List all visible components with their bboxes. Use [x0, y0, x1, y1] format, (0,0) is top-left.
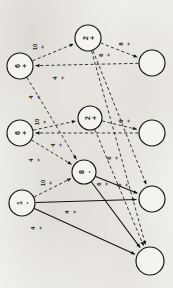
- node-n10: [136, 247, 164, 275]
- edge-weight-label: 4+: [64, 210, 77, 214]
- node-n9: [139, 186, 165, 212]
- node-value: 6: [14, 131, 21, 135]
- edge-n8-n10: [34, 209, 135, 255]
- edge-weight-label: 4+: [52, 76, 65, 80]
- edge-weight-label: 10+: [34, 118, 47, 125]
- node-n3: [139, 50, 165, 76]
- edge-weight-sign: +: [125, 119, 131, 123]
- edge-weight-value: 4: [52, 76, 58, 80]
- network-diagram: 10+8+6+4+4+10+6+4+4+6+10+6+6+4+4+ 2+6+2+…: [0, 0, 173, 288]
- edge-weight-value: 10: [40, 179, 46, 186]
- edge-weight-sign: +: [35, 158, 41, 162]
- node-label-group: 6+: [14, 64, 29, 68]
- edge-weight-label: 4+: [30, 226, 43, 230]
- node-circle: [136, 247, 164, 275]
- node-value: 1: [16, 201, 23, 205]
- edge-weight-sign: +: [35, 95, 41, 99]
- edge-weight-value: 8: [118, 42, 124, 46]
- node-value: 2: [84, 116, 91, 120]
- arrowhead-n6-n5: [36, 131, 40, 134]
- edge-weight-value: 6: [98, 53, 104, 57]
- edge-weight-value: 6: [118, 119, 124, 123]
- figure-canvas: 10+8+6+4+4+10+6+4+4+6+10+6+6+4+4+ 2+6+2+…: [0, 0, 173, 288]
- arrowhead-n5-n7: [67, 161, 71, 164]
- node-circle: [139, 50, 165, 76]
- edge-weight-sign: +: [41, 120, 47, 124]
- edge-weight-label: 10+: [40, 179, 53, 186]
- edge-weight-sign: +: [71, 210, 77, 214]
- edge-weight-label: 4+: [50, 143, 63, 147]
- node-n5: 6+: [7, 120, 33, 146]
- node-sign: +: [89, 36, 96, 40]
- arrowhead-n1-n3: [133, 54, 137, 57]
- edge-weight-label: 6+: [96, 182, 109, 186]
- node-n1: 2+: [75, 25, 101, 51]
- edges-layer: [27, 43, 146, 254]
- edge-weight-value: 10: [34, 118, 40, 125]
- edge-weight-label: 6+: [118, 119, 131, 123]
- node-circle: [139, 186, 165, 212]
- node-sign: +: [91, 116, 98, 120]
- node-n2: 6+: [7, 53, 33, 79]
- edge-weight-value: 4: [28, 158, 34, 162]
- node-label-group: 6+: [14, 131, 29, 135]
- node-circle: [139, 120, 165, 146]
- node-n4: 2+: [78, 106, 102, 130]
- nodes-layer: 2+6+2+6+8-1-: [7, 25, 165, 275]
- node-sign: +: [21, 64, 28, 68]
- arrowhead-n4-n10: [141, 241, 144, 245]
- arrowhead-n3-n2: [36, 64, 40, 67]
- node-value: 2: [82, 36, 89, 40]
- edge-weight-sign: +: [59, 76, 65, 80]
- node-label-group: 2+: [82, 36, 97, 40]
- edge-weight-sign: +: [123, 183, 129, 187]
- edge-weight-value: 6: [116, 183, 122, 187]
- edge-weight-value: 4: [64, 210, 70, 214]
- edge-weight-label: 4+: [28, 158, 41, 162]
- edge-n8-n9: [35, 199, 136, 202]
- edge-n1-n10: [92, 51, 146, 245]
- node-sign: +: [21, 131, 28, 135]
- edge-weight-value: 10: [32, 43, 38, 50]
- edge-weight-label: 8+: [118, 42, 131, 46]
- edge-weight-value: 4: [30, 226, 36, 230]
- edge-weight-sign: +: [37, 226, 43, 230]
- arrowhead-n8-n7: [67, 179, 71, 182]
- node-n7: 8-: [72, 160, 96, 184]
- arrowhead-n8-n9: [133, 198, 137, 201]
- node-value: 8: [78, 170, 85, 174]
- edge-weight-value: 4: [50, 143, 56, 147]
- node-n8: 1-: [9, 190, 35, 216]
- node-value: 6: [14, 64, 21, 68]
- edge-weight-sign: +: [105, 53, 111, 57]
- edge-weight-label: 6+: [98, 53, 111, 57]
- edge-weight-sign: +: [47, 181, 53, 185]
- edge-weight-sign: +: [103, 182, 109, 186]
- node-label-group: 2+: [84, 116, 99, 120]
- node-n6: [139, 120, 165, 146]
- edge-weight-value: 6: [106, 156, 112, 160]
- edge-weight-value: 4: [28, 95, 34, 99]
- edge-weight-sign: +: [39, 45, 45, 49]
- arrowhead-n5-n4: [72, 120, 76, 123]
- edge-weight-value: 6: [96, 182, 102, 186]
- edge-weight-label: 4+: [28, 95, 41, 99]
- edge-weight-label: 6+: [106, 156, 119, 160]
- edge-weight-label: 10+: [32, 43, 45, 50]
- edge-weight-sign: +: [125, 42, 131, 46]
- edge-weight-sign: +: [113, 156, 119, 160]
- edge-n3-n2: [36, 63, 139, 65]
- edge-weight-sign: +: [57, 143, 63, 147]
